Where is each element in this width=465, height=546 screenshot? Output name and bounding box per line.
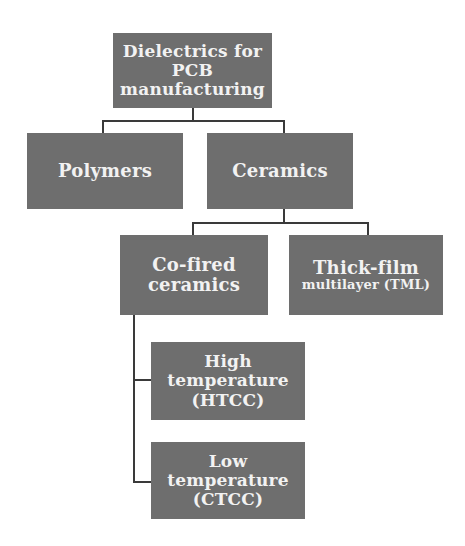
node-polymers: Polymers bbox=[27, 133, 183, 209]
node-cofired: Co-fired ceramics bbox=[120, 235, 268, 315]
node-ctcc-line3: (CTCC) bbox=[167, 490, 289, 509]
node-htcc-line2: temperature bbox=[167, 371, 289, 390]
connector-ceramics-horizontal bbox=[192, 222, 369, 224]
connector-to-ctcc bbox=[133, 481, 151, 483]
node-polymers-label: Polymers bbox=[58, 161, 152, 181]
node-root-line3: manufacturing bbox=[120, 80, 265, 99]
node-root-line2: PCB bbox=[120, 61, 265, 80]
node-ctcc-line1: Low bbox=[167, 452, 289, 471]
node-ceramics: Ceramics bbox=[207, 133, 353, 209]
connector-to-polymers bbox=[102, 120, 104, 133]
connector-to-ceramics bbox=[283, 120, 285, 133]
node-root: Dielectrics for PCB manufacturing bbox=[113, 33, 272, 108]
connector-to-thickfilm bbox=[367, 222, 369, 235]
node-htcc: High temperature (HTCC) bbox=[151, 342, 305, 420]
connector-to-cofired bbox=[192, 222, 194, 235]
node-htcc-line1: High bbox=[167, 352, 289, 371]
connector-to-htcc bbox=[133, 379, 151, 381]
node-root-line1: Dielectrics for bbox=[120, 42, 265, 61]
node-ctcc: Low temperature (CTCC) bbox=[151, 442, 305, 519]
connector-root-horizontal bbox=[102, 120, 285, 122]
node-cofired-line1: Co-fired bbox=[148, 255, 240, 275]
connector-ceramics-stem bbox=[283, 209, 285, 223]
node-ceramics-label: Ceramics bbox=[232, 161, 328, 181]
node-thickfilm-line1: Thick-film bbox=[302, 258, 430, 278]
node-htcc-line3: (HTCC) bbox=[167, 391, 289, 410]
node-thickfilm-line2: multilayer (TML) bbox=[302, 278, 430, 293]
connector-cofired-stem bbox=[133, 315, 135, 483]
node-cofired-line2: ceramics bbox=[148, 275, 240, 295]
node-ctcc-line2: temperature bbox=[167, 471, 289, 490]
node-thickfilm: Thick-film multilayer (TML) bbox=[289, 235, 443, 315]
